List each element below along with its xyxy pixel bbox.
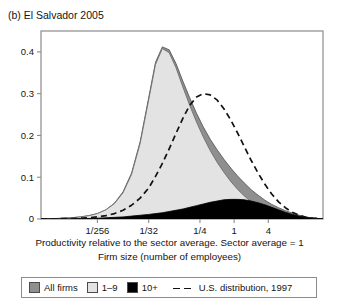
- y-tick-label: 0: [29, 213, 34, 224]
- legend-label-large-firms: 10+: [142, 282, 158, 293]
- legend-item-large-firms: 10+: [127, 282, 158, 293]
- legend-item-all-firms: All firms: [29, 282, 78, 293]
- x-tick-label: 1/256: [86, 225, 110, 236]
- x-tick-label: 1/32: [139, 225, 158, 236]
- figure-panel: (b) El Salvador 2005 00.10.20.30.4 1/256…: [0, 0, 339, 307]
- y-tick-label: 0.1: [21, 172, 34, 183]
- y-tick-label: 0.2: [21, 130, 34, 141]
- x-axis-label-block: Productivity relative to the sector aver…: [0, 236, 339, 264]
- legend-swatch-small-firms: [87, 282, 98, 293]
- legend-label-us-distribution: U.S. distribution, 1997: [199, 282, 292, 293]
- x-tick-label: 4: [266, 225, 271, 236]
- x-tick-label: 1: [231, 225, 236, 236]
- distribution-chart: 00.10.20.30.4 1/2561/321/414: [0, 0, 339, 240]
- legend-item-small-firms: 1–9: [87, 282, 118, 293]
- x-tick-label: 1/4: [193, 225, 206, 236]
- chart-legend: All firms 1–9 10+ U.S. distribution, 199…: [21, 277, 317, 298]
- legend-label-small-firms: 1–9: [102, 282, 118, 293]
- legend-swatch-all-firms: [29, 282, 40, 293]
- y-tick-label: 0.3: [21, 88, 34, 99]
- y-tick-label: 0.4: [21, 46, 34, 57]
- x-axis-label-line2: Firm size (number of employees): [0, 250, 339, 264]
- x-axis-ticks: 1/2561/321/414: [86, 219, 271, 236]
- legend-swatch-large-firms: [127, 282, 138, 293]
- legend-item-us-distribution: U.S. distribution, 1997: [173, 282, 292, 293]
- legend-label-all-firms: All firms: [44, 282, 78, 293]
- legend-dashed-line-icon: [173, 283, 195, 293]
- plot-area: 00.10.20.30.4 1/2561/321/414: [0, 0, 339, 240]
- x-axis-label-line1: Productivity relative to the sector aver…: [0, 236, 339, 250]
- y-axis-ticks: 00.10.20.30.4: [21, 46, 41, 224]
